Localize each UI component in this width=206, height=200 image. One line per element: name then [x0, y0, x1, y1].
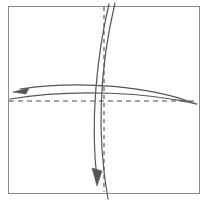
fold-diagram-canvas: [0, 0, 206, 200]
fold-diagram-container: [0, 0, 206, 200]
